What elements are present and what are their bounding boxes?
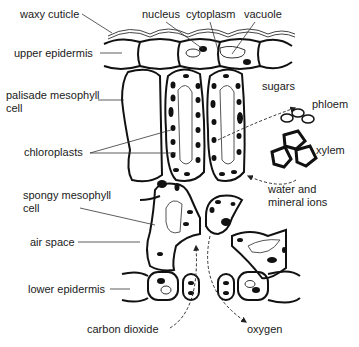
upper-epidermis bbox=[104, 39, 292, 69]
label-vacuole: vacuole bbox=[244, 8, 282, 21]
label-sugars: sugars bbox=[262, 80, 295, 93]
label-cytoplasm: cytoplasm bbox=[186, 8, 236, 21]
label-spongy-mesophyll-cell: spongy mesophyll cell bbox=[23, 189, 111, 215]
spongy-mesophyll-cells bbox=[140, 184, 286, 279]
waxy-cuticle bbox=[108, 29, 295, 39]
label-chloroplasts: chloroplasts bbox=[24, 146, 83, 159]
label-nucleus: nucleus bbox=[142, 8, 180, 21]
spongy-contents bbox=[157, 180, 286, 263]
label-phloem: phloem bbox=[312, 98, 348, 111]
label-palisade-mesophyll-cell: palisade mesophyll cell bbox=[6, 89, 100, 115]
palisade-vacuoles bbox=[178, 85, 234, 164]
xylem-icon bbox=[272, 131, 316, 167]
label-carbon-dioxide: carbon dioxide bbox=[87, 323, 159, 336]
phloem-icon bbox=[281, 109, 314, 123]
label-oxygen: oxygen bbox=[247, 323, 282, 336]
chloroplasts bbox=[169, 74, 244, 176]
label-waxy-cuticle: waxy cuticle bbox=[20, 8, 79, 21]
label-water-and-mineral-ions: water and mineral ions bbox=[268, 183, 327, 209]
label-upper-epidermis: upper epidermis bbox=[14, 47, 93, 60]
label-lower-epidermis: lower epidermis bbox=[28, 283, 105, 296]
label-xylem: xylem bbox=[316, 144, 345, 157]
label-air-space: air space bbox=[30, 236, 75, 249]
lower-epidermis-contents bbox=[157, 278, 260, 295]
